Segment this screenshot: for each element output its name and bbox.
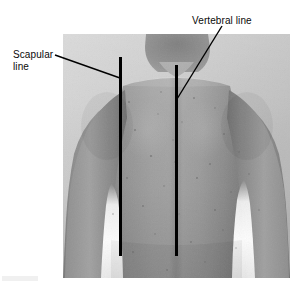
scan-edge-artifact bbox=[2, 276, 38, 281]
scapular-reference-line bbox=[119, 57, 122, 256]
annotated-anatomy-figure: Scapular line Vertebral line bbox=[0, 0, 302, 285]
scapular-line-label: Scapular line bbox=[13, 49, 53, 72]
back-photograph bbox=[63, 34, 290, 278]
vertebral-line-label: Vertebral line bbox=[192, 15, 252, 27]
vertebral-reference-line bbox=[175, 65, 178, 256]
photograph-canvas bbox=[63, 34, 290, 278]
